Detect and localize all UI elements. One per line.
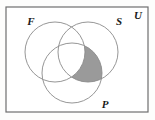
venn-diagram-figure: F S P U — [0, 0, 155, 120]
set-label-s: S — [116, 15, 122, 27]
set-label-f: F — [26, 15, 35, 27]
venn-diagram-canvas: F S P U — [0, 0, 155, 120]
set-label-p: P — [102, 98, 109, 110]
universal-set-label-u: U — [134, 9, 143, 21]
